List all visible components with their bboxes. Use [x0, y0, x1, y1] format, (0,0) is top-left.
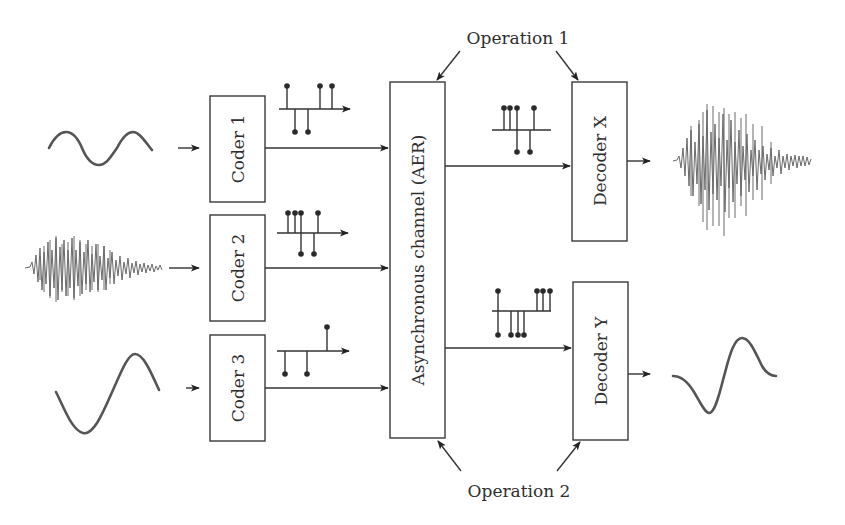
operation-1-arrow-to-decoder-x: [556, 51, 578, 80]
coder-3-label: Coder 3: [228, 354, 248, 423]
operation-1-arrow-to-channel: [437, 51, 460, 80]
coder-1-block[interactable]: Coder 1: [210, 96, 265, 202]
spike-train-decoder-y-icon: [492, 288, 553, 338]
operation-1-label: Operation 1: [467, 28, 570, 48]
operation-2-arrow-to-channel: [438, 441, 461, 471]
aer-diagram: Coder 1 Coder 2 Coder 3 Async: [0, 0, 845, 525]
input-signal-2-speech-icon: [25, 236, 162, 302]
spike-train-coder-3-icon: [277, 324, 349, 377]
asynchronous-channel-block[interactable]: Asynchronous channel (AER): [390, 82, 445, 438]
decoder-y-label: Decoder Y: [591, 316, 611, 406]
operation-2-label: Operation 2: [468, 481, 571, 501]
decoder-x-block[interactable]: Decoder X: [572, 82, 627, 241]
input-signal-3-sine-icon: [56, 354, 159, 433]
spike-train-coder-2-icon: [277, 210, 348, 257]
decoder-y-block[interactable]: Decoder Y: [573, 282, 628, 440]
decoder-x-label: Decoder X: [590, 115, 610, 206]
coder-1-label: Coder 1: [228, 115, 248, 184]
coder-2-label: Coder 2: [228, 234, 248, 303]
output-signal-y-sine-icon: [673, 338, 776, 413]
input-signal-1-sine-icon: [49, 132, 152, 165]
coder-3-block[interactable]: Coder 3: [210, 335, 265, 441]
spike-train-decoder-x-icon: [492, 105, 551, 155]
spike-train-coder-1-icon: [279, 83, 350, 135]
asynchronous-channel-label: Asynchronous channel (AER): [408, 135, 428, 387]
output-signal-x-speech-icon: [673, 104, 811, 236]
coder-2-block[interactable]: Coder 2: [210, 215, 265, 321]
operation-2-arrow-to-decoder-y: [557, 442, 580, 471]
